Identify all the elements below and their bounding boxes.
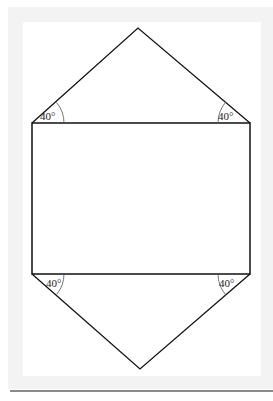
geometry-diagram: 40° 40° 40° 40° xyxy=(0,0,273,401)
angle-label-top-right: 40° xyxy=(218,110,233,122)
angle-arc-top-left xyxy=(57,102,65,123)
center-rectangle xyxy=(32,123,250,274)
top-triangle xyxy=(32,28,250,123)
bottom-triangle xyxy=(32,274,250,369)
angle-label-bottom-right: 40° xyxy=(219,277,234,289)
angle-label-bottom-left: 40° xyxy=(46,277,61,289)
angle-label-top-left: 40° xyxy=(40,110,55,122)
